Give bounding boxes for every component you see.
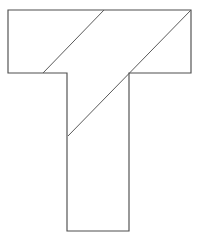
figure-canvas bbox=[0, 0, 200, 243]
t-shape-diagram bbox=[0, 0, 200, 243]
